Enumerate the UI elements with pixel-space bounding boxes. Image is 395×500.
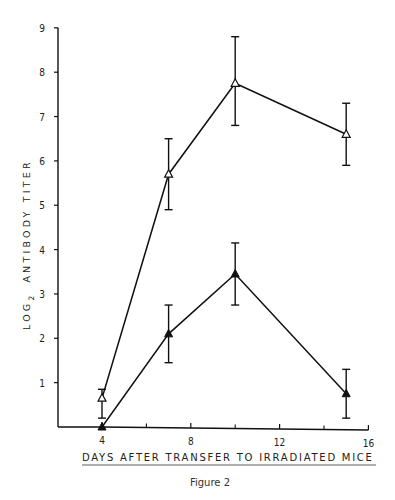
y-tick-label: 3 [39,289,45,300]
series-line [102,83,346,398]
axes [58,28,368,430]
y-axis-ticks: 123456789 [39,23,58,389]
open-triangle-marker [231,79,239,87]
y-tick-label: 2 [39,333,45,344]
y-tick-label: 1 [39,378,45,389]
figure-caption: Figure 2 [190,477,230,488]
y-tick-label: 4 [39,245,45,256]
series-open-triangle [98,37,350,418]
x-tick-label: 4 [99,435,105,446]
series-line [102,274,346,427]
open-triangle-marker [98,394,106,402]
data-series [98,37,350,430]
y-tick-label: 9 [39,23,45,34]
antibody-titer-chart: 123456789 481216 LOG2ANTIBODY TITERDAYS … [0,0,395,500]
y-tick-label: 8 [39,67,45,78]
y-tick-label: 7 [39,112,45,123]
y-tick-label: 6 [39,156,45,167]
axis-labels: LOG2ANTIBODY TITERDAYS AFTER TRANSFER TO… [21,159,376,488]
y-axis-label: LOG2ANTIBODY TITER [21,159,36,330]
x-axis-ticks: 481216 [99,422,374,449]
x-tick-label: 8 [188,436,194,447]
x-axis-label: DAYS AFTER TRANSFER TO IRRADIATED MICE [82,452,375,463]
x-tick-label: 16 [363,438,375,449]
filled-triangle-marker [231,269,239,277]
x-tick-label: 12 [274,437,285,448]
series-filled-triangle [98,243,350,430]
y-tick-label: 5 [39,200,45,211]
